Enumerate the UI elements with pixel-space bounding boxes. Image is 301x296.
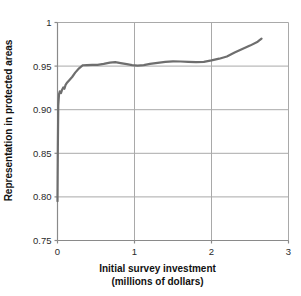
y-tick-label: 0.75: [33, 235, 52, 246]
chart-figure: Representation in protected areas 0.750.…: [0, 0, 301, 296]
y-tick-label: 0.85: [33, 148, 52, 159]
y-tick-label: 1: [46, 17, 51, 28]
x-tick-label: 1: [132, 246, 137, 257]
y-tick-label: 0.80: [33, 191, 52, 202]
y-tick-label: 0.95: [33, 61, 52, 72]
x-axis-title-line2: (millions of dollars): [20, 275, 295, 288]
x-axis-title-line1: Initial survey investment: [20, 262, 295, 275]
y-tick-label: 0.90: [33, 104, 52, 115]
data-line-series: [58, 39, 262, 202]
plot-area: 0.750.800.850.900.9510123: [0, 0, 301, 296]
x-tick-label: 3: [286, 246, 291, 257]
x-tick-label: 2: [209, 246, 214, 257]
x-axis-title: Initial survey investment (millions of d…: [20, 262, 295, 288]
x-tick-label: 0: [55, 246, 60, 257]
